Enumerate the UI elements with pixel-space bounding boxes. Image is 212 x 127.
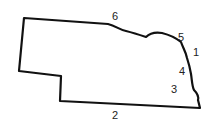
region-label-4: 4 [179,66,185,77]
region-label-5: 5 [178,32,184,43]
region-label-3: 3 [171,84,177,95]
state-outline-map [0,0,212,127]
region-label-2: 2 [112,110,118,121]
region-label-6: 6 [112,11,118,22]
region-label-1: 1 [193,47,199,58]
